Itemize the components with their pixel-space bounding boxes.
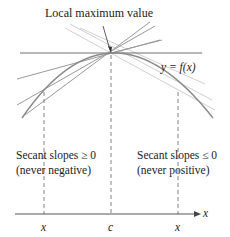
tick-label-c: c [108,220,113,234]
tick-label-left-x: x [41,220,46,234]
local-maximum-diagram [0,0,230,237]
curve-label: y = f(x) [161,60,196,74]
right-note-line1: Secant slopes ≤ 0 [137,148,217,162]
tick-label-right-x: x [175,220,180,234]
left-note-line2: (never negative) [16,163,91,177]
x-axis-arrowhead [194,211,201,217]
right-note-line2: (never positive) [137,163,210,177]
title-label: Local maximum value [45,6,153,20]
left-secant-lines [17,22,162,115]
axis-variable-label: x [203,206,208,220]
left-note-line1: Secant slopes ≥ 0 [16,148,96,162]
